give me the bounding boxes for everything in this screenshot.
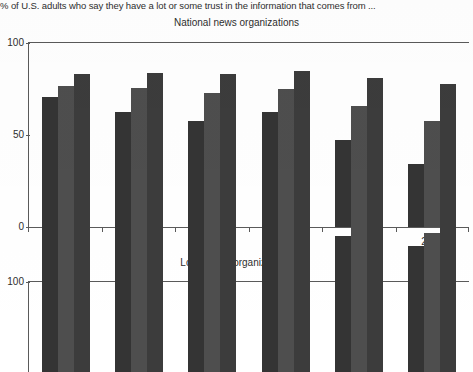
x-axis-national: 201620172018201920202021 [28, 228, 469, 248]
bar-2020-series-1 [335, 140, 351, 227]
bar-group-2021 [396, 282, 469, 372]
bar-2017-series-3 [147, 214, 163, 372]
bar-2016-series-3 [74, 74, 90, 227]
bar-2018-series-3 [220, 74, 236, 227]
bar-2016-series-1 [42, 225, 58, 372]
y-axis-tick-0-national: 0 [18, 222, 24, 232]
bar-2019-series-2 [278, 216, 294, 372]
chart-title-national: National news organizations [0, 16, 473, 29]
bar-2018-series-2 [204, 219, 220, 372]
y-axis-tick-100-national: 100 [7, 38, 24, 48]
bar-2018-series-1 [188, 225, 204, 372]
bar-group-2018 [176, 43, 249, 227]
bar-2020-series-3 [367, 78, 383, 227]
bar-group-2019 [249, 282, 322, 372]
bar-group-2020 [322, 43, 395, 227]
bar-2016-series-2 [58, 221, 74, 372]
bar-2018-series-1 [188, 121, 204, 227]
chart-panel-national: National news organizations 100 50 0 201… [0, 16, 473, 248]
bar-group-2018 [176, 282, 249, 372]
plot-area-national: 100 50 0 [28, 42, 469, 228]
bar-2020-series-3 [367, 218, 383, 372]
bar-2020-series-2 [351, 106, 367, 227]
bar-group-2016 [29, 282, 102, 372]
bar-2017-series-2 [131, 88, 147, 228]
bar-2016-series-3 [74, 218, 90, 372]
bar-2016-series-2 [58, 86, 74, 227]
bar-2019-series-1 [262, 112, 278, 227]
bar-groups-national [29, 43, 469, 227]
bar-2017-series-1 [115, 112, 131, 227]
chart-panel-local: Local news organizations 100 [0, 256, 473, 372]
bar-2021-series-2 [424, 121, 440, 227]
y-axis-tick-50-national: 50 [13, 130, 24, 140]
bar-group-2016 [29, 43, 102, 227]
bar-group-2020 [322, 282, 395, 372]
bar-2021-series-1 [408, 246, 424, 372]
bar-groups-local [29, 282, 469, 372]
bar-2017-series-1 [115, 219, 131, 372]
y-axis-tick-100-local: 100 [7, 277, 24, 287]
bar-2016-series-1 [42, 97, 58, 227]
bar-2017-series-3 [147, 73, 163, 227]
bar-2020-series-1 [335, 236, 351, 372]
bar-2019-series-1 [262, 221, 278, 372]
bar-2018-series-2 [204, 93, 220, 227]
bar-2019-series-2 [278, 89, 294, 227]
bar-group-2021 [396, 43, 469, 227]
bar-2018-series-3 [220, 214, 236, 372]
bar-2021-series-1 [408, 164, 424, 227]
bar-group-2019 [249, 43, 322, 227]
bar-2021-series-3 [440, 219, 456, 372]
bar-group-2017 [102, 43, 175, 227]
bar-2017-series-2 [131, 216, 147, 372]
bar-2020-series-2 [351, 227, 367, 372]
bar-2021-series-2 [424, 233, 440, 372]
bar-2019-series-3 [294, 210, 310, 372]
bar-group-2017 [102, 282, 175, 372]
bar-2021-series-3 [440, 84, 456, 227]
chart-note: % of U.S. adults who say they have a lot… [0, 0, 473, 12]
bar-2019-series-3 [294, 71, 310, 227]
plot-area-local: 100 [28, 281, 469, 372]
